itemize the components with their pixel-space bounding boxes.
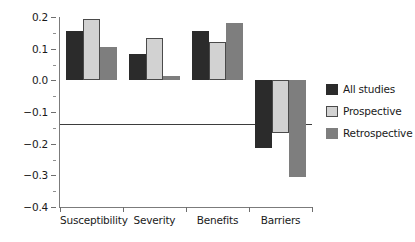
bar	[146, 38, 163, 80]
bar-chart: Effect size (r) 0.20.10.0−0.1−0.2−0.3−0.…	[0, 0, 415, 242]
x-tick-mark	[60, 207, 61, 212]
x-tick-mark	[123, 207, 124, 212]
y-tick-label: 0.0	[18, 75, 48, 86]
bar	[289, 80, 306, 177]
x-tick-mark	[312, 207, 313, 212]
bar	[192, 31, 209, 80]
y-tick-mark	[51, 17, 56, 18]
y-tick-label: 0.2	[18, 12, 48, 23]
y-minor-tick-mark	[53, 128, 56, 129]
y-tick-mark	[51, 207, 56, 208]
y-tick-mark	[51, 175, 56, 176]
plot-area	[60, 17, 312, 207]
y-tick-label: −0.2	[18, 139, 48, 150]
bar	[272, 80, 289, 132]
y-axis: 0.20.10.0−0.1−0.2−0.3−0.4	[22, 0, 56, 242]
legend-item: Prospective	[326, 102, 415, 120]
bar	[163, 76, 180, 80]
y-tick-label: 0.1	[18, 44, 48, 55]
legend-swatch	[326, 84, 338, 95]
y-minor-tick-mark	[53, 96, 56, 97]
bar	[129, 54, 146, 80]
bar	[255, 80, 272, 148]
y-tick-mark	[51, 144, 56, 145]
x-axis: SusceptibilitySeverityBenefitsBarriers	[60, 207, 312, 242]
x-tick-label: Benefits	[186, 214, 249, 226]
x-tick-label: Severity	[123, 214, 186, 226]
bar	[100, 47, 117, 80]
legend-label: All studies	[343, 84, 395, 95]
chart-legend: All studiesProspectiveRetrospective	[326, 80, 415, 146]
x-tick-label: Susceptibility	[60, 214, 123, 226]
y-tick-mark	[51, 112, 56, 113]
x-tick-label: Barriers	[249, 214, 312, 226]
x-tick-mark	[249, 207, 250, 212]
legend-swatch	[326, 128, 338, 139]
legend-swatch	[326, 106, 338, 117]
y-minor-tick-mark	[53, 65, 56, 66]
y-tick-label: −0.3	[18, 170, 48, 181]
legend-item: All studies	[326, 80, 415, 98]
y-minor-tick-mark	[53, 191, 56, 192]
x-tick-mark	[186, 207, 187, 212]
y-tick-mark	[51, 49, 56, 50]
bar	[83, 19, 100, 81]
bar	[226, 23, 243, 80]
bar	[209, 42, 226, 80]
y-tick-mark	[51, 80, 56, 81]
y-tick-label: −0.4	[18, 202, 48, 213]
bar	[66, 31, 83, 80]
legend-label: Prospective	[343, 106, 402, 117]
y-tick-label: −0.1	[18, 107, 48, 118]
y-minor-tick-mark	[53, 33, 56, 34]
y-minor-tick-mark	[53, 160, 56, 161]
legend-label: Retrospective	[343, 128, 412, 139]
legend-item: Retrospective	[326, 124, 415, 142]
